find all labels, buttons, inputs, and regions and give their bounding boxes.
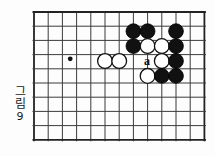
stone-white-4[interactable] <box>112 54 127 69</box>
go-board[interactable]: a <box>0 0 215 156</box>
marker-point-a: a <box>144 54 150 68</box>
board-markers: a <box>144 54 150 68</box>
star-point-1 <box>68 56 73 61</box>
stone-black-6[interactable] <box>169 54 184 69</box>
stone-black-4[interactable] <box>126 39 141 54</box>
stone-white-6[interactable] <box>140 69 155 84</box>
go-diagram-figure: 그림 9 a <box>0 0 215 156</box>
stone-black-8[interactable] <box>169 69 184 84</box>
stone-black-5[interactable] <box>169 39 184 54</box>
board-star-points <box>68 56 73 61</box>
stone-black-3[interactable] <box>169 24 184 39</box>
stone-black-1[interactable] <box>126 24 141 39</box>
stone-black-2[interactable] <box>140 24 155 39</box>
stone-white-5[interactable] <box>154 54 169 69</box>
stone-white-1[interactable] <box>140 39 155 54</box>
stone-white-3[interactable] <box>98 54 113 69</box>
stone-black-7[interactable] <box>154 69 169 84</box>
board-stones <box>98 24 184 83</box>
stone-white-2[interactable] <box>154 39 169 54</box>
